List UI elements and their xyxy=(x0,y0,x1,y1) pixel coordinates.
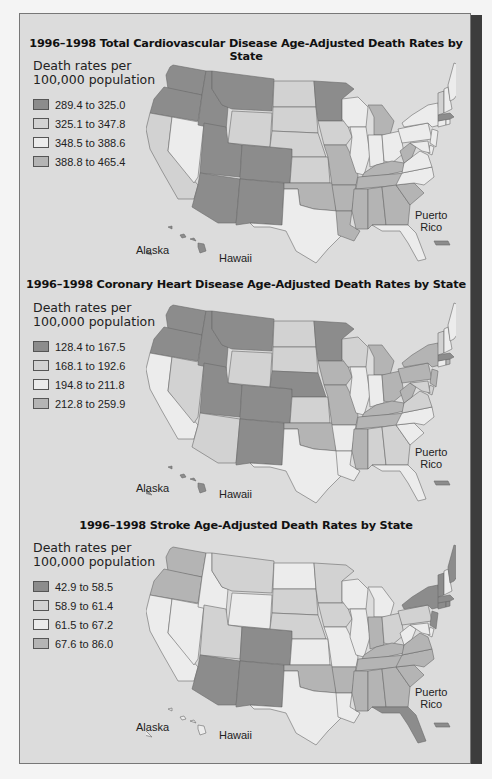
legend-heading-line1: Death rates per xyxy=(33,59,155,73)
legend-heading-line1: Death rates per xyxy=(33,541,155,555)
state-wy xyxy=(228,111,272,147)
state-mi xyxy=(368,105,394,135)
legend-label: 348.5 to 388.6 xyxy=(55,137,125,149)
state-sd xyxy=(272,107,318,133)
label-puerto-rico: Puerto Rico xyxy=(415,446,447,470)
legend-swatch xyxy=(33,341,49,352)
legend-item: 194.8 to 211.8 xyxy=(33,375,155,394)
legend-item: 42.9 to 58.5 xyxy=(33,577,155,596)
state-ny xyxy=(402,343,440,367)
label-puerto-rico-line1: Puerto xyxy=(415,209,447,221)
legend-item: 168.1 to 192.6 xyxy=(33,356,155,375)
map-section-stroke: 1996–1998 Stroke Age-Adjusted Death Rate… xyxy=(20,519,472,765)
label-puerto-rico: Puerto Rico xyxy=(415,209,447,233)
state-az xyxy=(192,173,240,223)
legend-label: 388.8 to 465.4 xyxy=(55,156,125,168)
legend-swatch xyxy=(33,619,49,630)
legend-label: 325.1 to 347.8 xyxy=(55,118,125,130)
state-ny xyxy=(402,585,440,609)
state-wi xyxy=(342,337,368,367)
legend-swatch xyxy=(33,156,49,167)
legend: Death rates per 100,000 population 289.4… xyxy=(33,59,155,171)
state-ks xyxy=(290,157,330,183)
legend-heading-line2: 100,000 population xyxy=(33,73,155,87)
label-alaska: Alaska xyxy=(136,244,169,256)
state-nm xyxy=(236,419,284,465)
legend-heading-line2: 100,000 population xyxy=(33,315,155,329)
state-mi xyxy=(368,587,394,617)
legend-label: 194.8 to 211.8 xyxy=(55,379,125,391)
state-wi xyxy=(342,97,368,127)
map-svg xyxy=(146,299,456,504)
legend-label: 168.1 to 192.6 xyxy=(55,360,125,372)
map-section-chd: 1996–1998 Coronary Heart Disease Age-Adj… xyxy=(20,266,472,516)
state-nj xyxy=(430,369,438,387)
legend-item: 212.8 to 259.9 xyxy=(33,394,155,413)
legend-swatch xyxy=(33,379,49,390)
state-nj xyxy=(430,129,438,147)
legend-item: 325.1 to 347.8 xyxy=(33,114,155,133)
state-pa xyxy=(398,363,432,383)
state-ak xyxy=(146,691,152,741)
state-me xyxy=(448,63,456,101)
legend-heading-line1: Death rates per xyxy=(33,301,155,315)
state-co xyxy=(240,627,292,665)
label-puerto-rico-line2: Rico xyxy=(415,458,447,470)
state-me xyxy=(448,545,456,583)
map-svg xyxy=(146,59,456,264)
legend-item: 388.8 to 465.4 xyxy=(33,152,155,171)
state-sd xyxy=(272,589,318,615)
state-hi xyxy=(168,708,206,735)
label-hawaii: Hawaii xyxy=(219,252,252,264)
state-hi xyxy=(168,466,206,493)
state-az xyxy=(192,413,240,463)
legend-item: 348.5 to 388.6 xyxy=(33,133,155,152)
legend-heading: Death rates per 100,000 population xyxy=(33,301,155,329)
state-wy xyxy=(228,593,272,629)
state-nm xyxy=(236,179,284,225)
legend-swatch xyxy=(33,118,49,129)
legend-label: 58.9 to 61.4 xyxy=(55,600,113,612)
state-ks xyxy=(290,397,330,423)
state-nj xyxy=(430,611,438,629)
map-title: 1996–1998 Stroke Age-Adjusted Death Rate… xyxy=(20,519,472,532)
legend-swatch xyxy=(33,398,49,409)
state-az xyxy=(192,655,240,705)
label-alaska: Alaska xyxy=(136,721,169,733)
legend-swatch xyxy=(33,99,49,110)
state-in xyxy=(368,375,384,407)
legend-item: 61.5 to 67.2 xyxy=(33,615,155,634)
state-in xyxy=(368,617,384,649)
legend-label: 289.4 to 325.0 xyxy=(55,99,125,111)
state-pr xyxy=(434,481,450,485)
legend-swatch xyxy=(33,600,49,611)
state-ri xyxy=(446,359,450,365)
legend-item: 67.6 to 86.0 xyxy=(33,634,155,653)
legend-label: 67.6 to 86.0 xyxy=(55,638,113,650)
legend-heading: Death rates per 100,000 population xyxy=(33,541,155,569)
state-ri xyxy=(446,119,450,125)
legend-label: 42.9 to 58.5 xyxy=(55,581,113,593)
map-svg xyxy=(146,541,456,746)
legend-label: 212.8 to 259.9 xyxy=(55,398,125,410)
state-pa xyxy=(398,605,432,625)
state-ms xyxy=(352,189,368,229)
state-co xyxy=(240,145,292,183)
label-puerto-rico-line1: Puerto xyxy=(415,446,447,458)
label-puerto-rico-line2: Rico xyxy=(415,698,447,710)
state-ms xyxy=(352,429,368,469)
us-choropleth-map xyxy=(146,59,456,264)
label-puerto-rico: Puerto Rico xyxy=(415,686,447,710)
legend-item: 58.9 to 61.4 xyxy=(33,596,155,615)
legend-heading-line2: 100,000 population xyxy=(33,555,155,569)
state-wi xyxy=(342,579,368,609)
state-pr xyxy=(434,241,450,245)
state-nd xyxy=(273,563,316,589)
state-nd xyxy=(273,321,316,347)
state-ny xyxy=(402,103,440,127)
state-me xyxy=(448,303,456,341)
figure-panel: 1996–1998 Total Cardiovascular Disease A… xyxy=(19,13,471,764)
state-pa xyxy=(398,123,432,143)
state-in xyxy=(368,135,384,167)
page-edge-strip xyxy=(471,15,482,764)
